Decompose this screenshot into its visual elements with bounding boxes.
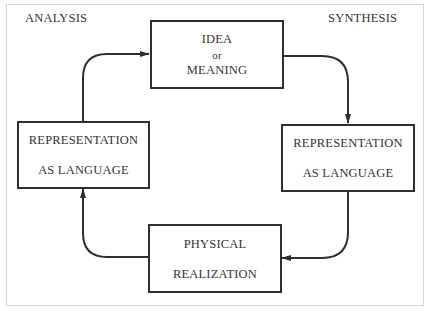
node-line: REALIZATION [173, 259, 257, 289]
arrow-physical-to-analysis [83, 189, 148, 257]
node-line: MEANING [187, 62, 247, 79]
arrow-analysis-to-idea [83, 54, 149, 121]
node-line: AS LANGUAGE [38, 155, 129, 185]
node-representation-synthesis: REPRESENTATION AS LANGUAGE [281, 124, 415, 192]
arrow-synthesis-to-physical [282, 191, 348, 258]
node-line: REPRESENTATION [293, 128, 402, 158]
node-representation-analysis: REPRESENTATION AS LANGUAGE [17, 121, 150, 189]
node-line: or [212, 48, 222, 62]
arrow-idea-to-synthesis [283, 56, 348, 123]
node-line: IDEA [202, 31, 233, 48]
node-line: AS LANGUAGE [303, 158, 394, 188]
node-physical-realization: PHYSICAL REALIZATION [148, 224, 282, 293]
node-idea-meaning: IDEA or MEANING [150, 20, 284, 89]
node-line: PHYSICAL [184, 229, 247, 259]
node-line: REPRESENTATION [29, 125, 138, 155]
